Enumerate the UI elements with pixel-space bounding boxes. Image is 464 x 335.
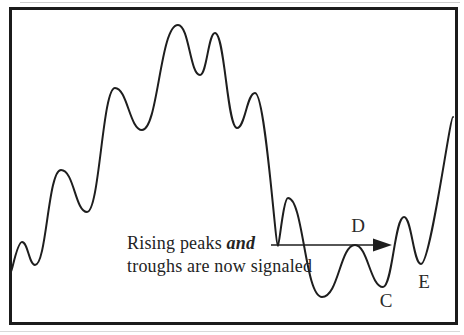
annotation-caption: Rising peaks and troughs are now signale… [127,232,312,278]
figure-canvas: Rising peaks and troughs are now signale… [0,0,464,335]
peak-label-d: D [351,216,365,235]
price-curve-svg [0,0,464,335]
caption-line1-emphasis: and [227,233,256,253]
caption-line2-text: troughs are now signaled [127,256,312,276]
caption-line1-text: Rising peaks [127,233,227,253]
trough-label-c: C [380,291,393,310]
trough-label-e: E [418,272,430,291]
annotation-arrow-head [373,239,392,252]
